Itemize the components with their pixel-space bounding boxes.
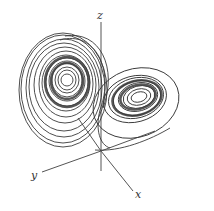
y-axis <box>42 151 101 172</box>
x-axis-label: x <box>135 188 141 201</box>
lorenz-attractor-figure: z y x <box>0 0 214 211</box>
left-lobe <box>19 33 107 147</box>
right-lobe <box>83 56 189 150</box>
x-axis <box>101 151 133 191</box>
left-lobe-dense <box>45 57 89 107</box>
y-axis-label: y <box>31 169 37 182</box>
x-axis-hidden <box>78 118 101 151</box>
z-axis-label: z <box>97 9 103 22</box>
